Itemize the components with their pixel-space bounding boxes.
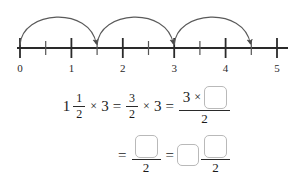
equation-line-1: 1 1 2 × 3 = 3 2 × 3 = 3 × — [0, 82, 295, 130]
jump-arc-3 — [174, 17, 250, 45]
result-factor: 3 — [183, 90, 191, 106]
result-fraction-1: 3 × 2 — [179, 86, 230, 126]
result-denominator-2: 2 — [140, 161, 153, 175]
result-mixed-numerator — [201, 135, 230, 158]
improper-numerator: 3 — [126, 92, 138, 105]
result-numerator-2 — [132, 135, 161, 158]
equation-area: 1 1 2 × 3 = 3 2 × 3 = 3 × — [0, 82, 295, 187]
improper-fraction: 3 2 — [126, 92, 138, 120]
equation-line-2: = 2 = 2 — [0, 130, 295, 180]
equals-sign-4: = — [166, 148, 174, 163]
result-fraction-2: 2 — [132, 135, 161, 175]
tick-label-5: 5 — [274, 62, 280, 74]
equals-sign-1: = — [113, 99, 121, 114]
worksheet-page: 0 1 2 3 4 5 1 1 2 × 3 = 3 2 × — [0, 0, 295, 187]
number-line-svg: 0 1 2 3 4 5 — [0, 0, 295, 78]
equals-sign-3: = — [118, 148, 126, 163]
tick-label-0: 0 — [17, 62, 23, 74]
improper-denominator: 2 — [126, 108, 138, 121]
equals-sign-2: = — [165, 99, 173, 114]
mixed-number-numerator: 1 — [73, 92, 85, 105]
jump-arcs — [20, 17, 251, 45]
jump-arc-1 — [20, 17, 96, 45]
factor-2: 3 — [154, 99, 162, 114]
mixed-number-fraction: 1 2 — [73, 92, 85, 120]
mixed-number-denominator: 2 — [73, 108, 85, 121]
tick-label-4: 4 — [223, 62, 229, 74]
jump-arc-2 — [97, 17, 173, 45]
tick-label-1: 1 — [69, 62, 75, 74]
result-denominator-1: 2 — [198, 112, 211, 126]
mixed-number-whole: 1 — [63, 99, 71, 114]
answer-box-4[interactable] — [204, 135, 227, 158]
result-numerator-1: 3 × — [179, 86, 230, 109]
factor-1: 3 — [101, 99, 109, 114]
answer-box-1[interactable] — [204, 86, 227, 109]
result-mixed-fraction: 2 — [201, 135, 230, 175]
answer-box-2[interactable] — [135, 135, 158, 158]
number-line-diagram: 0 1 2 3 4 5 — [0, 0, 295, 78]
tick-label-2: 2 — [120, 62, 126, 74]
times-operator-2: × — [143, 100, 150, 112]
result-mixed-denominator: 2 — [209, 161, 222, 175]
answer-box-3[interactable] — [177, 144, 199, 166]
times-operator-3: × — [194, 91, 201, 104]
tick-label-3: 3 — [171, 62, 177, 74]
times-operator-1: × — [90, 100, 97, 112]
